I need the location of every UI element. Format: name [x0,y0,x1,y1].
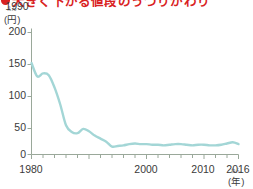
chart-figure: 大きく下がる値段のうつりかわり えん (円) ねん (年) 0 50 100 1… [0,0,253,189]
plot-area [0,0,253,189]
x-tick-marks [32,155,239,160]
y-tick-marks [28,33,32,155]
series-line-値段 [32,63,239,147]
